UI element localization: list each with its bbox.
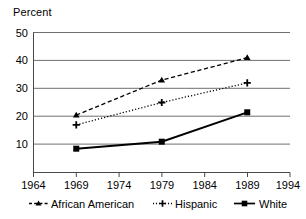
legend-label-african-american: African American: [51, 198, 134, 210]
chart-legend: African American Hispanic White: [29, 198, 287, 210]
y-tick-label-40: 40: [16, 54, 28, 66]
series-line-dashed: [76, 58, 247, 115]
x-tick-label-1969: 1969: [64, 179, 88, 191]
plus-marker-icon: [244, 79, 251, 86]
x-tick-label-1984: 1984: [192, 179, 216, 191]
data-series-layer: [73, 54, 251, 151]
plus-marker-icon: [73, 121, 80, 128]
x-tick-label-1979: 1979: [150, 179, 174, 191]
x-axis-ticks: [34, 173, 291, 178]
plus-marker-icon: [158, 99, 165, 106]
gridlines: [33, 33, 290, 145]
y-tick-label-30: 30: [16, 82, 28, 94]
x-tick-label-1964: 1964: [21, 179, 45, 191]
legend-label-hispanic: Hispanic: [175, 198, 218, 210]
legend-entry-white[interactable]: White: [234, 198, 287, 210]
triangle-marker-icon: [158, 77, 165, 83]
legend-label-white: White: [259, 198, 287, 210]
square-marker-icon: [242, 201, 248, 207]
square-marker-icon: [159, 139, 165, 145]
legend-entry-hispanic[interactable]: Hispanic: [153, 198, 218, 210]
plus-marker-icon: [159, 200, 165, 206]
triangle-marker-icon: [244, 54, 251, 60]
y-tick-label-50: 50: [16, 27, 28, 39]
x-tick-label-1974: 1974: [107, 179, 131, 191]
square-marker-icon: [73, 146, 79, 152]
line-chart-plot: 50 40 30 20 10 1964 1969 1974 1979 1984 …: [0, 0, 306, 219]
x-tick-label-1994: 1994: [276, 179, 300, 191]
chart-container: Percent 50 40 30: [0, 0, 306, 219]
y-tick-label-20: 20: [16, 110, 28, 122]
series-african-american: [73, 54, 251, 117]
x-axis-tick-labels: 1964 1969 1974 1979 1984 1989 1994: [21, 179, 300, 191]
square-marker-icon: [244, 109, 250, 115]
legend-entry-african-american[interactable]: African American: [29, 198, 134, 210]
y-axis-tick-labels: 50 40 30 20 10: [16, 27, 28, 151]
series-white: [73, 109, 250, 151]
y-tick-label-10: 10: [16, 138, 28, 150]
x-tick-label-1989: 1989: [235, 179, 259, 191]
